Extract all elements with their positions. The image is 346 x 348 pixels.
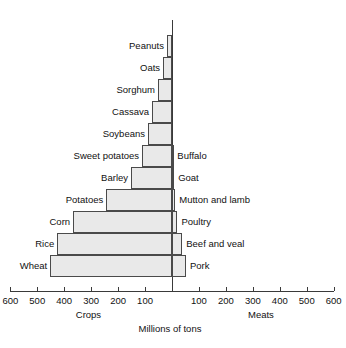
bar-row: CornPoultry — [0, 211, 340, 233]
axis-tick — [10, 287, 11, 291]
axis-tick — [145, 287, 146, 291]
bar-row: WheatPork — [0, 255, 340, 277]
bar-row: BarleyGoat — [0, 167, 340, 189]
axis-tick — [280, 287, 281, 291]
bar-row: RiceBeef and veal — [0, 233, 340, 255]
bar-crop[interactable] — [50, 255, 172, 277]
axis-tick-zero — [172, 287, 173, 291]
bar-crop[interactable] — [131, 167, 172, 189]
bar-crop[interactable] — [167, 35, 172, 57]
bar-crop[interactable] — [163, 57, 172, 79]
axis-tick — [91, 287, 92, 291]
axis-tick-label: 200 — [103, 296, 133, 306]
axis-tick-label: 500 — [292, 296, 322, 306]
bar-meat[interactable] — [172, 189, 175, 211]
axis-tick-label: 400 — [49, 296, 79, 306]
axis-tick — [118, 287, 119, 291]
bar-crop[interactable] — [142, 145, 172, 167]
bar-row: Sorghum — [0, 79, 340, 101]
bar-meat[interactable] — [172, 145, 174, 167]
bar-row: Oats — [0, 57, 340, 79]
bar-label-crop: Oats — [140, 63, 160, 73]
bar-crop[interactable] — [57, 233, 172, 255]
axis-tick-label: 300 — [76, 296, 106, 306]
axis-tick-label: 200 — [211, 296, 241, 306]
axis-tick — [226, 287, 227, 291]
axis-tick-label: 600 — [319, 296, 346, 306]
bar-label-crop: Sweet potatoes — [74, 151, 140, 161]
bar-meat[interactable] — [172, 233, 182, 255]
bar-row: Peanuts — [0, 35, 340, 57]
axis-tick — [199, 287, 200, 291]
bar-label-meat: Mutton and lamb — [179, 195, 250, 205]
bar-meat[interactable] — [172, 255, 186, 277]
bar-label-crop: Peanuts — [129, 41, 164, 51]
bar-label-crop: Barley — [101, 173, 128, 183]
bar-label-crop: Cassava — [112, 107, 149, 117]
bar-label-meat: Goat — [178, 173, 199, 183]
axis-label-crops: Crops — [58, 310, 118, 320]
bar-label-meat: Beef and veal — [186, 239, 244, 249]
bar-label-crop: Potatoes — [66, 195, 104, 205]
bar-row: Sweet potatoesBuffalo — [0, 145, 340, 167]
bar-crop[interactable] — [158, 79, 172, 101]
bar-crop[interactable] — [73, 211, 172, 233]
bar-row: PotatoesMutton and lamb — [0, 189, 340, 211]
bar-label-crop: Corn — [50, 217, 71, 227]
axis-tick — [64, 287, 65, 291]
bar-row: Cassava — [0, 101, 340, 123]
axis-tick — [37, 287, 38, 291]
bar-label-crop: Soybeans — [103, 129, 145, 139]
axis-tick-label: 300 — [238, 296, 268, 306]
axis-tick — [307, 287, 308, 291]
axis-tick-label: 100 — [184, 296, 214, 306]
axis-tick — [253, 287, 254, 291]
axis-label-meats: Meats — [231, 310, 291, 320]
axis-tick-label: 400 — [265, 296, 295, 306]
axis-tick-label: 100 — [130, 296, 160, 306]
bar-label-crop: Sorghum — [116, 85, 155, 95]
bar-crop[interactable] — [106, 189, 172, 211]
bar-meat[interactable] — [172, 211, 177, 233]
bar-label-crop: Rice — [35, 239, 54, 249]
bar-crop[interactable] — [148, 123, 172, 145]
bar-label-meat: Buffalo — [177, 151, 206, 161]
bar-meat[interactable] — [172, 167, 174, 189]
bar-label-crop: Wheat — [20, 261, 47, 271]
axis-tick-label: 500 — [22, 296, 52, 306]
bar-label-meat: Poultry — [181, 217, 211, 227]
bar-label-meat: Pork — [190, 261, 210, 271]
bar-crop[interactable] — [152, 101, 172, 123]
bar-row: Soybeans — [0, 123, 340, 145]
x-axis-line — [10, 291, 333, 292]
axis-tick — [334, 287, 335, 291]
axis-title-units: Millions of tons — [0, 324, 340, 334]
